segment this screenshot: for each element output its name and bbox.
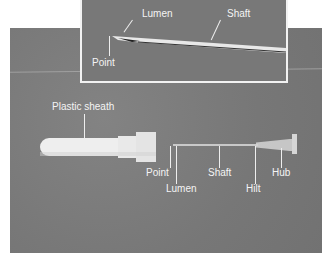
- hub-leader: [281, 148, 282, 168]
- hilt-label: Hilt: [246, 184, 260, 194]
- shaft-leader-main: [219, 146, 220, 168]
- inset-shaft-label: Shaft: [227, 9, 250, 19]
- needle-tip-closeup: [82, 0, 286, 81]
- plastic-sheath-label: Plastic sheath: [52, 102, 114, 112]
- inset-closeup: Lumen Shaft Point: [80, 0, 288, 83]
- lumen-leader-main: [176, 146, 177, 184]
- needle-shaft: [173, 144, 258, 146]
- inset-lumen-label: Lumen: [142, 9, 173, 19]
- inset-point-label: Point: [92, 58, 115, 68]
- shaft-label: Shaft: [208, 168, 231, 178]
- point-label: Point: [146, 168, 169, 178]
- hub-flange: [292, 134, 297, 154]
- hilt-leader: [255, 146, 256, 184]
- point-leader-main: [170, 146, 171, 168]
- lumen-label: Lumen: [166, 184, 197, 194]
- plastic-sheath: [38, 130, 160, 166]
- point-leader: [109, 36, 110, 56]
- hub-label: Hub: [272, 168, 290, 178]
